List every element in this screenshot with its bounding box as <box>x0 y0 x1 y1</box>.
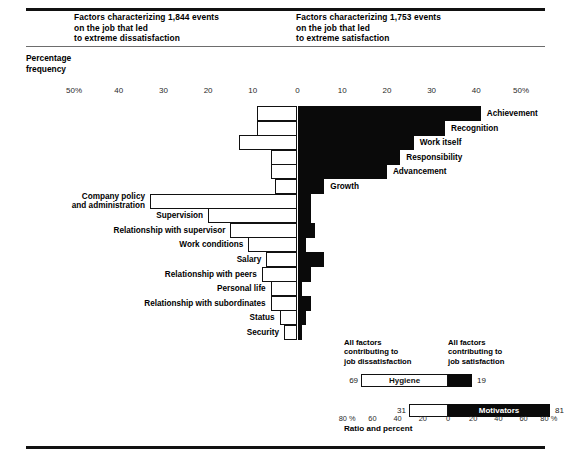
axis-tick-0: 50% <box>66 86 82 95</box>
factor-label: Supervision <box>156 211 203 221</box>
summary-legend: All factorscontributing tojob dissatisfa… <box>344 338 549 442</box>
bar-satisfaction <box>298 281 302 296</box>
axis-tick-8: 30 <box>427 86 436 95</box>
bottom-rule <box>26 446 545 449</box>
factor-label: Responsibility <box>406 153 462 163</box>
factor-label-line-1: Status <box>250 313 275 323</box>
bar-dissatisfaction <box>284 325 297 340</box>
legend-axis-tick-6: 40 <box>494 414 502 423</box>
legend-satisfaction-heading: All factorscontributing tojob satisfacti… <box>448 338 504 366</box>
factor-label-line-1: Supervision <box>156 211 203 221</box>
factor-row: Relationship with subordinates <box>0 296 553 311</box>
bar-dissatisfaction <box>271 296 298 311</box>
axis-tick-4: 10 <box>248 86 257 95</box>
percentage-frequency-line-2: frequency <box>26 64 71 75</box>
bar-dissatisfaction <box>275 179 297 194</box>
bar-dissatisfaction <box>257 121 297 136</box>
bar-satisfaction <box>298 237 307 252</box>
factor-label: Relationship with supervisor <box>114 226 226 236</box>
legend-dissatisfaction-line-3: job dissatisfaction <box>344 357 412 366</box>
factor-label: Work itself <box>420 138 462 148</box>
factor-row: Responsibility <box>0 150 553 165</box>
factor-bars-plot: AchievementRecognitionWork itselfRespons… <box>0 106 553 336</box>
satisfaction-title-line-2: on the job that led <box>296 23 511 34</box>
factor-row: Supervision <box>0 208 553 223</box>
axis-tick-2: 30 <box>159 86 168 95</box>
legend-row: Hygiene6919 <box>344 374 549 387</box>
percentage-axis: 50%4030201001020304050% <box>0 86 553 98</box>
bar-satisfaction <box>298 267 311 282</box>
dissatisfaction-title-line-2: on the job that led <box>74 23 284 34</box>
factor-label: Personal life <box>217 284 266 294</box>
factor-row: Advancement <box>0 164 553 179</box>
legend-axis-tick-7: 60 <box>519 414 527 423</box>
factor-row: Recognition <box>0 121 553 136</box>
bar-satisfaction <box>298 325 302 340</box>
factor-label-line-1: Responsibility <box>406 153 462 163</box>
legend-value-satisfaction: 19 <box>477 374 486 387</box>
factor-label-line-1: Achievement <box>487 109 538 119</box>
dissatisfaction-title-line-1: Factors characterizing 1,844 events <box>74 12 284 23</box>
factor-row: Work itself <box>0 135 553 150</box>
factor-label: Work conditions <box>179 240 243 250</box>
legend-value-dissatisfaction: 69 <box>344 374 358 387</box>
bar-dissatisfaction <box>262 267 298 282</box>
header-divider-rule <box>26 46 545 47</box>
factor-label-line-1: Advancement <box>393 167 447 177</box>
legend-axis-tick-8: 80 % <box>540 414 557 423</box>
factor-label: Relationship with subordinates <box>144 299 265 309</box>
legend-dissatisfaction-heading: All factorscontributing tojob dissatisfa… <box>344 338 412 366</box>
bar-satisfaction <box>298 121 446 136</box>
dissatisfaction-column-title: Factors characterizing 1,844 eventson th… <box>74 12 284 44</box>
bar-satisfaction <box>298 106 481 121</box>
factor-label-line-1: Work conditions <box>179 240 243 250</box>
bar-dissatisfaction <box>239 135 297 150</box>
axis-tick-1: 40 <box>114 86 123 95</box>
satisfaction-title-line-3: to extreme satisfaction <box>296 33 511 44</box>
axis-tick-7: 20 <box>382 86 391 95</box>
bar-satisfaction <box>298 179 325 194</box>
legend-satisfaction-line-3: job satisfaction <box>448 357 504 366</box>
legend-axis-tick-0: 80 % <box>339 414 356 423</box>
factor-label: Growth <box>330 182 359 192</box>
factor-label-line-1: Personal life <box>217 284 266 294</box>
legend-satisfaction-line-2: contributing to <box>448 347 504 356</box>
factor-label: Relationship with peers <box>165 270 257 280</box>
factor-row: Relationship with peers <box>0 267 553 282</box>
legend-dissatisfaction-line-1: All factors <box>344 338 412 347</box>
factor-label-line-1: Relationship with peers <box>165 270 257 280</box>
legend-bar-satisfaction <box>448 374 472 387</box>
factor-label: Advancement <box>393 167 447 177</box>
factor-label-line-1: Relationship with supervisor <box>114 226 226 236</box>
bar-dissatisfaction <box>257 106 297 121</box>
bar-dissatisfaction <box>271 150 298 165</box>
bar-satisfaction <box>298 135 414 150</box>
bar-dissatisfaction <box>280 310 298 325</box>
top-rule <box>26 8 545 11</box>
legend-axis-tick-1: 60 <box>368 414 376 423</box>
bar-dissatisfaction <box>248 237 297 252</box>
factor-label-line-1: Recognition <box>451 124 498 134</box>
bar-dissatisfaction <box>271 164 298 179</box>
axis-tick-10: 50% <box>513 86 529 95</box>
factor-label: Recognition <box>451 124 498 134</box>
satisfaction-title-line-1: Factors characterizing 1,753 events <box>296 12 511 23</box>
bar-satisfaction <box>298 310 307 325</box>
legend-satisfaction-line-1: All factors <box>448 338 504 347</box>
legend-axis: 80 %604020020406080 % <box>344 414 549 424</box>
factor-row: Relationship with supervisor <box>0 223 553 238</box>
legend-bar-name: Hygiene <box>361 374 448 387</box>
factor-row: Work conditions <box>0 237 553 252</box>
percentage-frequency-label: Percentagefrequency <box>26 53 71 74</box>
bar-satisfaction <box>298 164 387 179</box>
legend-axis-tick-4: 0 <box>446 414 450 423</box>
factor-label-line-1: Security <box>247 328 279 338</box>
legend-axis-tick-3: 20 <box>419 414 427 423</box>
legend-axis-tick-2: 40 <box>393 414 401 423</box>
factor-label-line-1: Growth <box>330 182 359 192</box>
bar-satisfaction <box>298 252 325 267</box>
factor-label-line-1: Work itself <box>420 138 462 148</box>
bar-satisfaction <box>298 223 316 238</box>
bar-satisfaction <box>298 150 401 165</box>
